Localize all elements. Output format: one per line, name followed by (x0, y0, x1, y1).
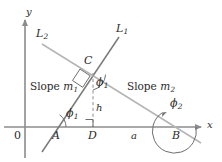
slope-m1-subscript: 1 (73, 85, 78, 94)
angle-phi2-b-subscript: 2 (178, 102, 183, 111)
x-axis-label: x (207, 120, 213, 130)
right-angle-mark-d (86, 120, 94, 128)
line-l1-subscript: 1 (123, 27, 128, 36)
angle-phi1-c-symbol: ϕ (96, 76, 104, 89)
point-c-label: C (84, 55, 92, 66)
line-l2-label: L2 (36, 28, 48, 41)
y-axis-label: y (26, 7, 32, 17)
point-d-label: D (88, 130, 97, 141)
angle-phi1-a-subscript: 1 (74, 112, 79, 121)
angle-arc-phi2-arrowhead (162, 112, 167, 117)
angle-phi2-b-symbol: ϕ (170, 97, 178, 110)
slope-m2-label: Slope m2 (127, 81, 175, 93)
point-a-label: A (52, 130, 60, 141)
slope-m1-label: Slope m1 (30, 81, 78, 93)
geometry-figure: y x 0 L2 L1 Slope m1 Slope m2 C A D B ϕ1… (0, 0, 222, 162)
angle-phi2-b-label: ϕ2 (170, 98, 183, 111)
slope-m1-symbol: m (63, 80, 73, 92)
origin-label: 0 (14, 130, 21, 141)
slope-m2-subscript: 2 (170, 85, 175, 94)
point-b-label: B (172, 130, 180, 141)
slope-m2-symbol: m (160, 80, 170, 92)
base-label: a (131, 131, 137, 141)
line-l1-label: L1 (116, 23, 128, 36)
angle-phi1-c-label: ϕ1 (96, 77, 109, 90)
angle-phi1-a-symbol: ϕ (66, 107, 74, 120)
slope-m2-text: Slope (127, 80, 160, 92)
angle-phi1-c-subscript: 1 (104, 81, 109, 90)
line-l2-subscript: 2 (43, 32, 48, 41)
angle-phi1-a-label: ϕ1 (66, 108, 79, 121)
slope-m1-text: Slope (30, 80, 63, 92)
height-label: h (96, 103, 102, 113)
